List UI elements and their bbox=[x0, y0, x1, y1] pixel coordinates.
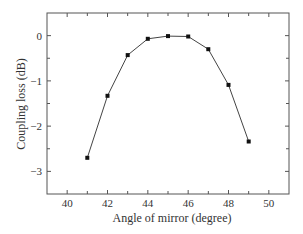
data-point-marker bbox=[166, 34, 170, 38]
x-tick-label: 46 bbox=[183, 197, 195, 209]
data-point-marker bbox=[247, 140, 251, 144]
plot-frame bbox=[47, 13, 289, 194]
x-tick-label: 50 bbox=[263, 197, 275, 209]
x-tick-label: 48 bbox=[223, 197, 235, 209]
data-point-marker bbox=[206, 47, 210, 51]
y-axis-title: Coupling loss (dB) bbox=[14, 58, 28, 149]
data-point-marker bbox=[186, 35, 190, 39]
y-tick-labels: 0−1−2−3 bbox=[30, 30, 42, 178]
data-markers bbox=[85, 34, 250, 160]
y-tick-label: −2 bbox=[30, 120, 42, 132]
data-point-marker bbox=[146, 37, 150, 41]
x-tick-label: 42 bbox=[102, 197, 113, 209]
data-point-marker bbox=[85, 156, 89, 160]
y-tick-label: −1 bbox=[30, 75, 42, 87]
axis-ticks bbox=[47, 13, 289, 194]
line-chart: 404244464850 0−1−2−3 Angle of mirror (de… bbox=[0, 0, 303, 234]
y-tick-label: −3 bbox=[30, 165, 42, 177]
x-tick-labels: 404244464850 bbox=[62, 197, 275, 209]
series-line bbox=[87, 36, 248, 158]
data-point-marker bbox=[126, 53, 130, 57]
data-point-marker bbox=[227, 83, 231, 87]
y-tick-label: 0 bbox=[37, 30, 43, 42]
x-tick-label: 40 bbox=[62, 197, 74, 209]
x-tick-label: 44 bbox=[142, 197, 154, 209]
data-point-marker bbox=[106, 94, 110, 98]
x-axis-title: Angle of mirror (degree) bbox=[113, 211, 232, 225]
